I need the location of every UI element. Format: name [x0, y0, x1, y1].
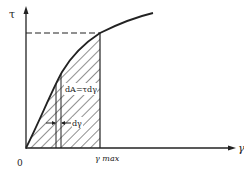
y-axis-label: τ	[9, 8, 15, 21]
gamma-max-label: γ max	[95, 154, 120, 163]
strip-area-label: dA=τdγ	[65, 85, 97, 94]
x-axis-arrow-icon	[228, 146, 236, 151]
stress-strain-diagram: τ γ 0 γ max dA=τdγ dγ	[0, 0, 244, 170]
strip-width-label: dγ	[72, 119, 82, 128]
origin-label: 0	[17, 158, 23, 168]
y-axis-arrow-icon	[24, 6, 29, 14]
x-axis-label: γ	[238, 142, 244, 155]
